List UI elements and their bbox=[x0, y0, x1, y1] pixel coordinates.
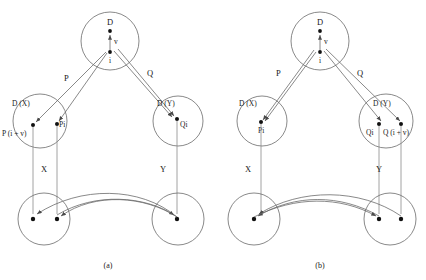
panel-b-caption: (b) bbox=[315, 261, 325, 270]
panel-b-lower-right-node-1 bbox=[377, 217, 381, 221]
panel-a-lower-left-label: X bbox=[41, 164, 47, 174]
panel-b-curve-left-to-right bbox=[254, 201, 376, 217]
panel-b-lower-right-label: Y bbox=[376, 164, 382, 174]
panel-b-edge-v-label: v bbox=[324, 37, 328, 46]
panel-a: D v i P Q D (X) P (i + v) Pi D (Y) Qi X … bbox=[2, 12, 204, 270]
panel-a-lower-right-node-1 bbox=[175, 217, 179, 221]
panel-b: D v i P Q D (X) Pi D (Y) Qi Q (i + v) X … bbox=[228, 12, 416, 270]
panel-a-left-cluster-label: D (X) bbox=[12, 99, 30, 108]
panel-a-curve-left-to-right bbox=[57, 199, 174, 215]
panel-b-top-node-upper bbox=[318, 29, 322, 33]
panel-a-edge-P-2 bbox=[59, 53, 107, 121]
panel-a-top-node-lower bbox=[108, 50, 112, 54]
panel-b-edge-P-1 bbox=[265, 52, 316, 121]
panel-a-left-node-2-label: Pi bbox=[59, 120, 65, 129]
panel-b-lower-left-label: X bbox=[245, 164, 251, 174]
panel-b-right-node-2 bbox=[399, 122, 403, 126]
panel-b-edge-P-2 bbox=[263, 50, 314, 120]
panel-b-top-lower-node-label: i bbox=[319, 56, 321, 65]
panel-a-right-node-1 bbox=[175, 117, 179, 121]
panel-a-top-lower-node-label: i bbox=[109, 56, 111, 65]
panel-a-lower-right-label: Y bbox=[160, 164, 166, 174]
panel-a-right-cluster-label: D (Y) bbox=[157, 99, 175, 108]
diagram-svg: D v i P Q D (X) P (i + v) Pi D (Y) Qi X … bbox=[0, 0, 426, 280]
panel-b-lower-left-node-1 bbox=[252, 217, 256, 221]
panel-b-lower-right-circle bbox=[364, 193, 416, 245]
panel-a-curve-right-to-left-2 bbox=[61, 200, 177, 217]
panel-b-edge-P-label: P bbox=[276, 68, 281, 78]
figure-container: D v i P Q D (X) P (i + v) Pi D (Y) Qi X … bbox=[0, 0, 426, 280]
panel-b-edge-Q-2 bbox=[326, 49, 400, 121]
panel-a-right-node-1-label: Qi bbox=[180, 120, 188, 129]
panel-a-edge-v-label: v bbox=[114, 37, 118, 46]
panel-a-left-node-1-label: P (i + v) bbox=[2, 129, 27, 138]
panel-a-lower-left-node-2 bbox=[55, 217, 59, 221]
panel-b-right-node-1-label: Qi bbox=[366, 128, 374, 137]
panel-a-left-node-1 bbox=[31, 123, 35, 127]
panel-b-top-node-lower bbox=[318, 50, 322, 54]
panel-a-top-node-upper bbox=[108, 29, 112, 33]
panel-b-right-node-2-label: Q (i + v) bbox=[383, 128, 410, 137]
panel-a-caption: (a) bbox=[104, 261, 113, 270]
panel-b-edge-Q-1 bbox=[324, 51, 381, 121]
panel-a-top-cluster-label: D bbox=[107, 17, 113, 27]
panel-b-right-node-1 bbox=[377, 122, 381, 126]
panel-b-left-cluster-label: D (X) bbox=[239, 99, 257, 108]
panel-b-lower-right-node-2 bbox=[399, 217, 403, 221]
panel-a-edge-P-label: P bbox=[64, 73, 69, 83]
panel-a-lower-left-node-1 bbox=[31, 217, 35, 221]
panel-b-left-node-1 bbox=[259, 120, 263, 124]
panel-a-edge-Q-label: Q bbox=[147, 68, 153, 78]
panel-a-edge-P-1 bbox=[36, 52, 106, 122]
panel-b-edge-Q-label: Q bbox=[357, 68, 363, 78]
panel-b-top-cluster-label: D bbox=[317, 17, 323, 27]
panel-a-lower-left-circle bbox=[18, 193, 70, 245]
panel-b-right-cluster-label: D (Y) bbox=[373, 99, 391, 108]
